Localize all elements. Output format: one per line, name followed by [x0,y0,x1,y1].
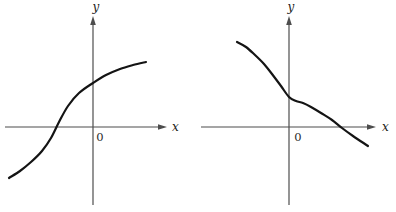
y-axis-label: y [92,0,100,14]
y-axis-label: y [287,0,295,14]
x-axis-label: x [382,120,389,134]
left-graph-svg: yx0 [0,0,198,212]
right-graph-svg: yx0 [198,0,396,212]
function-curve [237,42,368,146]
two-function-graphs-figure: yx0 yx0 [0,0,396,212]
x-axis-arrow-icon [158,124,167,130]
origin-label: 0 [294,130,301,144]
x-axis-arrow-icon [367,124,376,130]
y-axis-arrow-icon [90,16,96,25]
origin-label: 0 [96,130,103,144]
function-curve [9,62,146,178]
graph-panel-right: yx0 [198,0,396,212]
y-axis-arrow-icon [286,16,292,25]
graph-panel-left: yx0 [0,0,198,212]
x-axis-label: x [172,120,179,134]
